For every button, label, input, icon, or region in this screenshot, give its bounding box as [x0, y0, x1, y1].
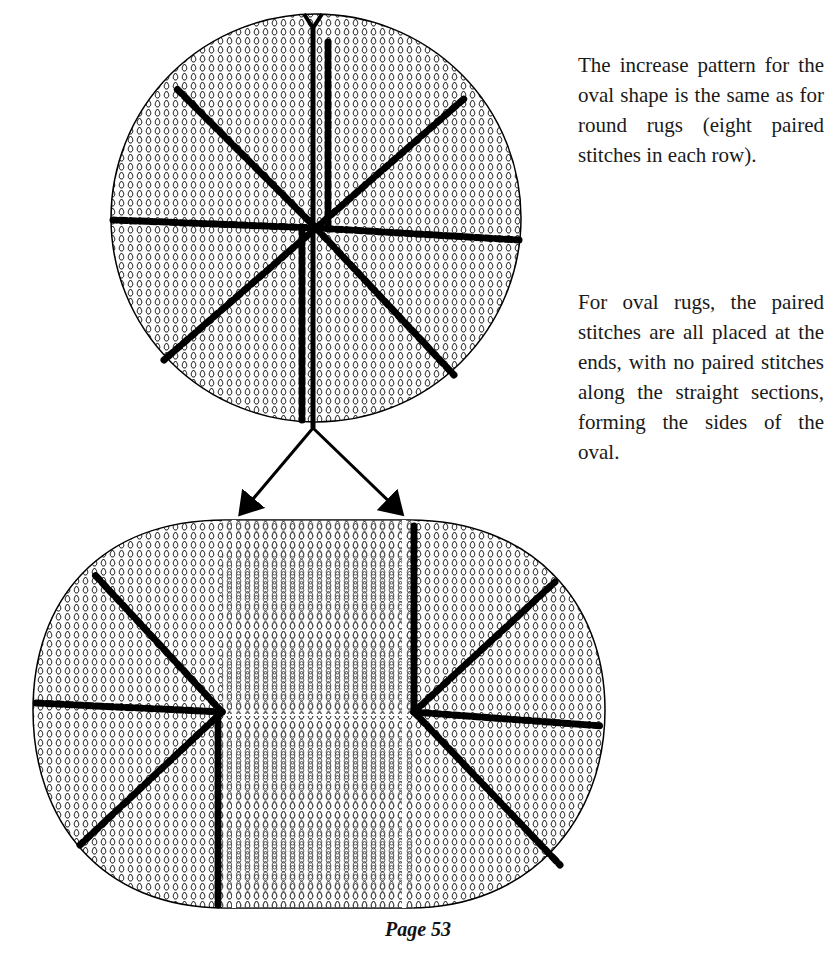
- round-rug-diagram: [111, 14, 521, 428]
- description-paragraph-1: The increase pattern for the oval shape …: [578, 50, 824, 170]
- page-number: Page 53: [0, 918, 836, 941]
- split-arrows: [242, 428, 400, 512]
- paragraph-text: For oval rugs, the paired stitches are a…: [578, 287, 824, 467]
- paragraph-text: The increase pattern for the oval shape …: [578, 50, 824, 170]
- oval-rug-diagram: [33, 520, 605, 908]
- description-paragraph-2: For oval rugs, the paired stitches are a…: [578, 287, 824, 467]
